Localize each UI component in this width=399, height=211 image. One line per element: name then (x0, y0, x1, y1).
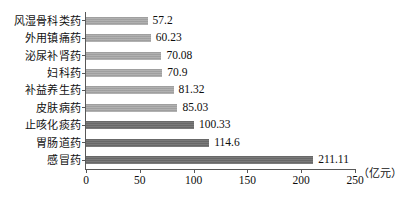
chart-row: 外用镇痛药60.23 (86, 29, 355, 46)
category-label: 感冒药 (47, 155, 81, 166)
chart-row: 皮肤病药85.03 (86, 99, 355, 116)
plot-area: 风湿骨科类药57.2外用镇痛药60.23泌尿补肾药70.08妇科药70.9补益养… (86, 12, 355, 169)
x-axis-tick (86, 169, 87, 173)
bar-value-label: 70.08 (166, 50, 192, 62)
bar: 100.33 (86, 121, 194, 129)
x-axis-tick-label: 0 (83, 175, 89, 187)
chart-row: 感冒药211.11 (86, 152, 355, 169)
bar: 85.03 (86, 104, 177, 112)
category-label: 皮肤病药 (36, 102, 81, 113)
chart-row: 风湿骨科类药57.2 (86, 12, 355, 29)
x-axis-tick-label: 50 (134, 175, 146, 187)
x-axis-tick (355, 169, 356, 173)
bar: 60.23 (86, 34, 151, 42)
bar-value-label: 81.32 (179, 85, 205, 97)
category-label: 风湿骨科类药 (14, 15, 81, 26)
bar: 70.9 (86, 69, 162, 77)
bar: 70.08 (86, 52, 161, 60)
chart-row: 泌尿补肾药70.08 (86, 47, 355, 64)
bar-value-label: 60.23 (156, 32, 182, 44)
axis-unit-label: （亿元） (358, 168, 399, 179)
bar-value-label: 70.9 (167, 67, 187, 79)
bar-value-label: 57.2 (153, 15, 173, 27)
x-axis-tick-label: 250 (346, 175, 363, 187)
category-label: 止咳化痰药 (25, 120, 81, 131)
category-label: 补益养生药 (25, 85, 81, 96)
x-axis-tick (301, 169, 302, 173)
x-axis-tick (140, 169, 141, 173)
x-axis-tick-label: 150 (239, 175, 256, 187)
category-label: 胃肠道药 (36, 137, 81, 148)
bar-value-label: 211.11 (318, 155, 349, 167)
bar-value-label: 100.33 (199, 120, 231, 132)
chart-row: 妇科药70.9 (86, 64, 355, 81)
x-axis-tick (247, 169, 248, 173)
bar: 57.2 (86, 17, 148, 25)
chart-row: 止咳化痰药100.33 (86, 117, 355, 134)
chart-row: 胃肠道药114.6 (86, 134, 355, 151)
bar: 81.32 (86, 86, 174, 94)
x-axis-tick-label: 100 (185, 175, 202, 187)
x-axis-line (85, 169, 356, 170)
chart-row: 补益养生药81.32 (86, 82, 355, 99)
category-label: 泌尿补肾药 (25, 50, 81, 61)
x-axis-tick-label: 200 (293, 175, 310, 187)
category-label: 外用镇痛药 (25, 33, 81, 44)
bar: 211.11 (86, 156, 313, 164)
bar-value-label: 114.6 (214, 137, 239, 149)
x-axis-tick (194, 169, 195, 173)
bar-value-label: 85.03 (182, 102, 208, 114)
bar: 114.6 (86, 139, 209, 147)
category-label: 妇科药 (47, 68, 81, 79)
